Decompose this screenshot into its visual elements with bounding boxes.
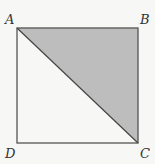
square-diagram: A B D C [0, 0, 155, 164]
vertex-label-b: B [139, 12, 150, 27]
vertex-label-d: D [4, 146, 16, 161]
vertex-label-a: A [4, 12, 14, 27]
vertex-label-c: C [140, 146, 150, 161]
